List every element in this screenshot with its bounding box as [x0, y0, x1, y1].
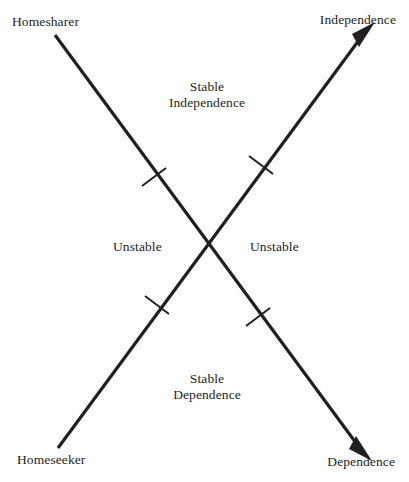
- region-label-unstable-right: Unstable: [250, 239, 299, 255]
- region-label-stable-dependence: Stable Dependence: [143, 371, 271, 403]
- region-label-line-1: Stable: [143, 371, 271, 387]
- diagram-canvas: Homesharer Independence Homeseeker Depen…: [0, 0, 409, 482]
- corner-label-dependence: Dependence: [327, 454, 395, 470]
- corner-label-independence: Independence: [320, 12, 396, 28]
- corner-label-homeseeker: Homeseeker: [17, 452, 85, 468]
- region-label-line-2: Independence: [143, 95, 271, 111]
- region-label-stable-independence: Stable Independence: [143, 79, 271, 111]
- axes-group: [0, 0, 409, 482]
- region-label-line-1: Stable: [143, 79, 271, 95]
- region-label-unstable-left: Unstable: [113, 239, 162, 255]
- corner-label-homesharer: Homesharer: [12, 14, 79, 30]
- region-label-line-2: Dependence: [143, 387, 271, 403]
